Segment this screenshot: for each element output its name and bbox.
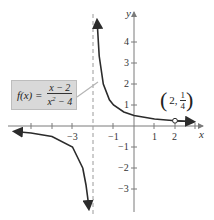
y-tick-label: 3 [124, 57, 129, 68]
hole-point-label: ( 2, 1 4 ) [160, 88, 193, 112]
open-paren: ( [160, 89, 167, 111]
point-x: 2, [169, 94, 177, 106]
x-axis-label: x [198, 128, 204, 140]
close-paren: ) [186, 89, 193, 111]
function-denominator: x2 − 4 [45, 94, 74, 107]
y-tick-label: −3 [118, 183, 129, 194]
y-tick-label: −2 [118, 162, 129, 173]
y-tick-label: 1 [124, 99, 129, 110]
curve-left-lower [83, 168, 89, 208]
y-tick-label: 2 [124, 78, 129, 89]
y-axis-label: y [125, 7, 131, 19]
hole-point [173, 118, 178, 123]
formula-leader-line [77, 82, 98, 97]
x-tick-label: 1 [152, 131, 157, 142]
function-label-box: f(x) = x − 2 x2 − 4 [11, 80, 77, 110]
y-tick-label: 4 [124, 36, 129, 47]
denominator-rest: − 4 [55, 97, 72, 108]
x-tick-label: −3 [67, 131, 78, 142]
y-tick-label: −1 [118, 141, 129, 152]
function-numerator: x − 2 [47, 82, 72, 94]
x-tick-label: 2 [172, 131, 177, 142]
function-fraction: x − 2 x2 − 4 [45, 82, 74, 107]
function-lhs: f(x) = [17, 89, 42, 101]
